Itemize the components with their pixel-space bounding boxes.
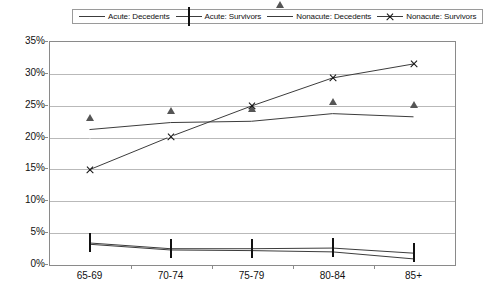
triangle-marker-icon [276, 8, 284, 32]
legend-key-icon [377, 11, 403, 22]
data-point [251, 240, 253, 258]
plot-area [49, 41, 456, 266]
data-point [332, 239, 334, 257]
legend-key-icon [267, 11, 293, 22]
legend-key-icon [79, 11, 105, 22]
x-axis-tick-mark [212, 265, 213, 269]
data-point [170, 240, 172, 258]
square-marker-icon [89, 233, 91, 252]
x-axis-tick-mark [293, 265, 294, 269]
y-axis-tick-label: 25% [1, 100, 45, 110]
triangle-marker-icon [329, 105, 337, 129]
data-point [410, 108, 418, 126]
legend-label: Acute: Decedents [108, 12, 170, 21]
square-marker-icon [170, 239, 172, 258]
x-axis-tick-label: 70-74 [158, 270, 184, 281]
y-axis: 0%5%10%15%20%25%30%35% [0, 0, 45, 293]
x-axis-tick-label: 80-84 [320, 270, 346, 281]
data-point [248, 112, 256, 130]
legend-marker-wrap [188, 8, 190, 26]
data-point [413, 244, 415, 262]
y-axis-tick-label: 0% [1, 259, 45, 269]
y-axis-tick-mark [44, 232, 48, 233]
y-axis-tick-label: 35% [1, 36, 45, 46]
gridline [50, 201, 455, 202]
y-axis-tick-label: 15% [1, 163, 45, 173]
y-axis-tick-label: 30% [1, 68, 45, 78]
square-marker-icon [413, 243, 415, 262]
x-axis-tick-mark [131, 265, 132, 269]
y-axis-tick-label: 5% [1, 227, 45, 237]
legend-label: Nonacute: Decedents [296, 12, 371, 21]
data-point [86, 121, 94, 139]
x-axis-tick-mark [374, 265, 375, 269]
y-axis-tick-mark [44, 137, 48, 138]
legend-label: Acute: Survivors [205, 12, 262, 21]
triangle-marker-icon [410, 108, 418, 132]
y-axis-tick-mark [44, 264, 48, 265]
legend-entry[interactable]: Nonacute: Decedents [267, 11, 371, 22]
y-axis-tick-mark [44, 105, 48, 106]
square-marker-icon [332, 238, 334, 257]
triangle-marker-icon [86, 121, 94, 145]
y-axis-tick-mark [44, 200, 48, 201]
square-marker-icon [188, 7, 190, 26]
legend-entry[interactable]: Nonacute: Survivors [377, 11, 476, 22]
triangle-marker-icon [248, 112, 256, 136]
gridline [50, 169, 455, 170]
gridline [50, 138, 455, 139]
x-axis-tick-label: 85+ [405, 270, 422, 281]
legend-line-icon [79, 16, 105, 17]
data-point [329, 105, 337, 123]
gridline [50, 74, 455, 75]
y-axis-tick-mark [44, 73, 48, 74]
legend-entry[interactable]: Acute: Decedents [79, 11, 170, 22]
x-axis-tick-label: 75-79 [239, 270, 265, 281]
data-point [89, 234, 91, 252]
y-axis-tick-mark [44, 168, 48, 169]
legend-label: Nonacute: Survivors [406, 12, 476, 21]
legend-key-icon [176, 11, 202, 22]
legend-entry[interactable]: Acute: Survivors [176, 11, 262, 22]
y-axis-tick-mark [44, 41, 48, 42]
legend-marker-wrap [276, 8, 284, 26]
square-marker-icon [251, 239, 253, 258]
y-axis-tick-label: 20% [1, 132, 45, 142]
data-point [167, 114, 175, 132]
x-axis-tick-label: 65-69 [77, 270, 103, 281]
y-axis-tick-label: 10% [1, 195, 45, 205]
gridline [50, 233, 455, 234]
chart-legend: Acute: DecedentsAcute: SurvivorsNonacute… [72, 9, 483, 24]
